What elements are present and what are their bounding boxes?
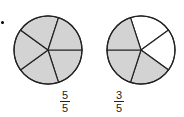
fraction-right-denominator: 5 <box>114 102 124 113</box>
fraction-right: 3 5 <box>114 90 124 113</box>
fraction-left: 5 5 <box>60 90 70 113</box>
comparison-placeholder-box[interactable] <box>91 95 100 104</box>
fraction-right-numerator: 3 <box>114 90 124 102</box>
fraction-left-denominator: 5 <box>60 102 70 113</box>
circle-left <box>14 16 82 84</box>
fraction-left-numerator: 5 <box>60 90 70 102</box>
circle-right <box>107 16 175 84</box>
